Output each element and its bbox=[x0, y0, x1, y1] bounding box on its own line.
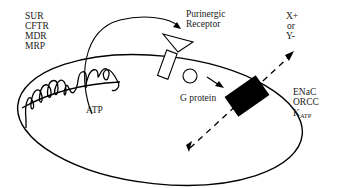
label-sur: SUR bbox=[25, 11, 44, 21]
purinergic-receptor-triangle bbox=[163, 34, 193, 52]
ion-labels: X+ or Y- bbox=[286, 11, 298, 41]
transporter-right-loop bbox=[106, 70, 119, 91]
label-or: or bbox=[287, 21, 296, 31]
transporter-labels: SUR CFTR MDR MRP bbox=[25, 11, 49, 51]
channel-labels: ENaC ORCC KATP bbox=[293, 87, 319, 119]
label-g-protein: G protein bbox=[180, 93, 216, 103]
label-purinergic: Purinergic bbox=[186, 9, 225, 19]
label-enac: ENaC bbox=[293, 87, 316, 97]
cell-signaling-diagram: SUR CFTR MDR MRP ATP Purinergic Receptor… bbox=[0, 0, 337, 188]
label-y-minus: Y- bbox=[286, 31, 295, 41]
label-mrp: MRP bbox=[25, 41, 45, 51]
label-receptor: Receptor bbox=[186, 19, 221, 29]
label-x-plus: X+ bbox=[286, 11, 298, 21]
g-protein-circle bbox=[183, 69, 197, 83]
cell-membrane bbox=[11, 41, 309, 188]
purinergic-receptor-body bbox=[158, 50, 178, 79]
label-cftr: CFTR bbox=[25, 21, 49, 31]
label-katp: KATP bbox=[293, 108, 312, 119]
receptor-labels: Purinergic Receptor bbox=[186, 9, 225, 29]
label-orcc: ORCC bbox=[293, 97, 319, 107]
ion-flux-arrowhead-out-icon bbox=[285, 51, 294, 61]
g-protein-arrowhead-icon bbox=[215, 81, 224, 88]
label-katp-sub: ATP bbox=[300, 112, 312, 119]
label-mdr: MDR bbox=[25, 31, 47, 41]
label-atp: ATP bbox=[86, 105, 103, 115]
membrane-line-through-coil bbox=[22, 82, 120, 108]
